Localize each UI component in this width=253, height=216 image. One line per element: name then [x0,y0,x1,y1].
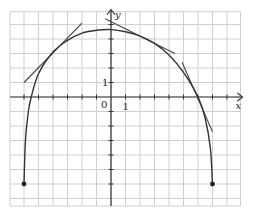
endpoint-dot-1 [22,182,27,187]
graph-canvas: x y 0 1 1 [0,0,253,216]
x-tick-label-1: 1 [123,101,129,112]
y-tick-label-1: 1 [102,77,108,88]
x-axis-label: x [236,100,242,111]
graph-figure: x y 0 1 1 [0,0,253,216]
origin-label: 0 [101,99,107,110]
function-curve [24,29,213,184]
endpoint-dot-2 [210,182,215,187]
y-axis-label: y [114,9,121,20]
axes: x y 0 1 1 [10,9,243,206]
tangent-lines [24,19,213,132]
